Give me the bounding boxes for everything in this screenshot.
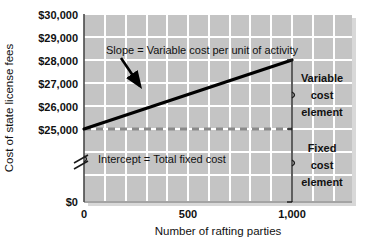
- y-tick-27000: $27,000: [38, 78, 78, 90]
- y-tick-0: $0: [66, 196, 78, 208]
- y-tick-30000: $30,000: [38, 9, 78, 21]
- slope-annotation-label: Slope = Variable cost per unit of activi…: [106, 44, 299, 56]
- y-axis-title: Cost of state license fees: [3, 44, 15, 173]
- y-tick-26000: $26,000: [38, 101, 78, 113]
- variable-cost-label-line3: element: [301, 106, 343, 118]
- y-tick-25000: $25,000: [38, 124, 78, 136]
- x-tick-500: 500: [179, 208, 197, 220]
- fixed-cost-label-line2: cost: [311, 159, 334, 171]
- fixed-cost-label-line1: Fixed: [308, 142, 337, 154]
- x-tick-1000: 1,000: [278, 208, 306, 220]
- y-tick-28000: $28,000: [38, 55, 78, 67]
- x-axis-title: Number of rafting parties: [155, 225, 282, 237]
- intercept-annotation-label: Intercept = Total fixed cost: [98, 153, 226, 165]
- fixed-cost-label-line3: element: [301, 176, 343, 188]
- variable-cost-label-line2: cost: [311, 89, 334, 101]
- variable-cost-label-line1: Variable: [301, 72, 343, 84]
- y-tick-29000: $29,000: [38, 32, 78, 44]
- x-tick-0: 0: [81, 208, 87, 220]
- cost-behavior-chart: $30,000 $29,000 $28,000 $27,000 $26,000 …: [0, 0, 372, 241]
